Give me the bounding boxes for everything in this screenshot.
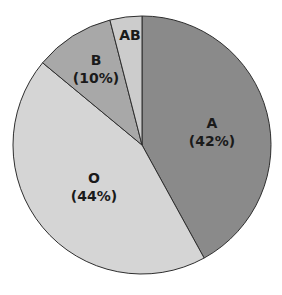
slice-label-ab: AB: [119, 27, 141, 43]
pie-chart: A(42%)O(44%)B(10%)AB: [0, 0, 282, 295]
